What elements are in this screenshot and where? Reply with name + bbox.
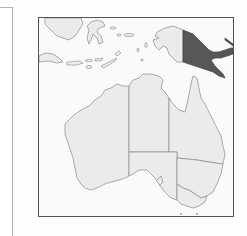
western-new-guinea xyxy=(153,26,183,62)
timor xyxy=(101,58,117,68)
south-australia xyxy=(129,152,177,200)
island xyxy=(180,213,182,215)
sulawesi xyxy=(87,20,105,44)
queensland xyxy=(169,76,225,164)
side-panel xyxy=(0,7,13,236)
island xyxy=(137,48,139,52)
island xyxy=(141,59,143,62)
island xyxy=(117,34,121,36)
locator-map xyxy=(38,17,234,217)
island xyxy=(95,58,103,61)
island xyxy=(115,51,121,56)
borneo xyxy=(45,18,83,40)
northern-territory xyxy=(129,74,169,152)
map-svg xyxy=(39,18,233,216)
lesser-sunda-islands xyxy=(67,61,83,65)
western-australia xyxy=(65,84,129,190)
island xyxy=(196,213,198,215)
papua-new-guinea xyxy=(183,30,233,78)
island xyxy=(145,43,147,48)
island xyxy=(124,34,134,37)
island xyxy=(85,59,93,62)
island xyxy=(110,27,116,29)
java xyxy=(39,53,63,63)
island xyxy=(86,66,92,69)
new-ireland xyxy=(225,38,233,46)
